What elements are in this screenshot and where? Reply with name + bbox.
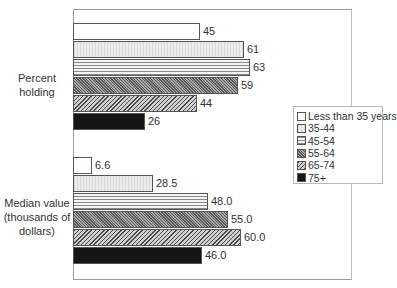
value-label: 28.5 <box>156 175 177 192</box>
bar-percent-55-64 <box>73 77 238 94</box>
value-label: 60.0 <box>244 229 265 246</box>
legend-item-under-35: Less than 35 years <box>297 110 382 122</box>
category-label-line: Median value <box>2 196 72 210</box>
bar-percent-under-35 <box>73 23 200 40</box>
legend-swatch-icon <box>297 149 306 158</box>
bar-median-55-64 <box>73 211 228 228</box>
value-label: 26 <box>148 113 160 130</box>
legend-swatch-icon <box>297 112 306 121</box>
bar-percent-75-plus <box>73 113 145 130</box>
value-label: 55.0 <box>231 211 252 228</box>
legend-label: 55-64 <box>308 147 335 159</box>
category-label-line: dollars) <box>2 224 72 238</box>
value-label: 46.0 <box>205 247 226 264</box>
bar-percent-45-54 <box>73 59 250 76</box>
legend-item-45-54: 45-54 <box>297 135 382 147</box>
legend-swatch-icon <box>297 124 306 133</box>
legend: Less than 35 years 35-44 45-54 55-64 65-… <box>293 106 383 184</box>
legend-swatch-icon <box>297 161 306 170</box>
value-label: 48.0 <box>211 193 232 210</box>
value-label: 6.6 <box>95 157 110 174</box>
value-label: 59 <box>241 77 253 94</box>
legend-item-35-44: 35-44 <box>297 122 382 134</box>
value-label: 44 <box>200 95 212 112</box>
legend-label: 35-44 <box>308 122 335 134</box>
category-label-line: (thousands of <box>2 210 72 224</box>
legend-item-55-64: 55-64 <box>297 147 382 159</box>
legend-swatch-icon <box>297 173 306 182</box>
value-label: 63 <box>253 59 265 76</box>
legend-label: 75+ <box>308 172 326 184</box>
bar-median-under-35 <box>73 157 92 174</box>
bar-median-35-44 <box>73 175 153 192</box>
category-label-median-value: Median value (thousands of dollars) <box>2 196 72 238</box>
bar-median-65-74 <box>73 229 241 246</box>
legend-item-65-74: 65-74 <box>297 159 382 171</box>
category-label-percent-holding: Percent holding <box>3 71 71 99</box>
bar-median-75-plus <box>73 247 202 264</box>
bar-percent-35-44 <box>73 41 244 58</box>
legend-label: Less than 35 years <box>308 110 397 122</box>
legend-item-75-plus: 75+ <box>297 171 382 183</box>
bar-median-45-54 <box>73 193 208 210</box>
bar-percent-65-74 <box>73 95 197 112</box>
value-label: 45 <box>203 23 215 40</box>
legend-label: 45-54 <box>308 135 335 147</box>
legend-swatch-icon <box>297 136 306 145</box>
value-label: 61 <box>247 41 259 58</box>
legend-label: 65-74 <box>308 159 335 171</box>
